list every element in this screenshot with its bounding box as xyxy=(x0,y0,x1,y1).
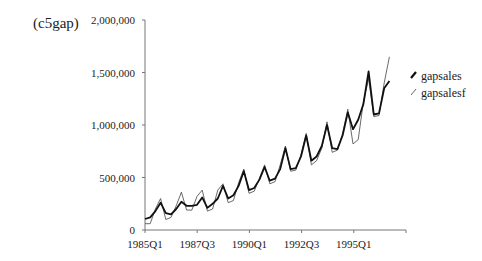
legend-item-gapsalesf: gapsalesf xyxy=(411,86,466,100)
y-tick-label: 1,500,000 xyxy=(91,67,136,79)
x-tick-label: 1987Q3 xyxy=(179,238,215,250)
legend: gapsales gapsalesf xyxy=(411,69,466,100)
series-line-gapsalesf xyxy=(145,57,389,224)
x-tick-label: 1992Q3 xyxy=(284,238,320,250)
x-tick-label: 1995Q1 xyxy=(336,238,371,250)
x-tick-label: 1990Q1 xyxy=(232,238,267,250)
series-line-gapsales xyxy=(145,71,389,219)
legend-item-gapsales: gapsales xyxy=(411,69,462,83)
line-chart: (c5gap) 0500,0001,000,0001,500,0002,000,… xyxy=(0,0,482,261)
panel-label: (c5gap) xyxy=(33,15,79,32)
y-tick-label: 1,000,000 xyxy=(91,119,136,131)
x-tick-label: 1985Q1 xyxy=(127,238,162,250)
y-tick-label: 2,000,000 xyxy=(91,14,136,26)
legend-swatch-thin-icon xyxy=(411,89,416,95)
legend-label: gapsalesf xyxy=(421,86,466,100)
plot-area xyxy=(145,57,389,224)
y-tick-label: 0 xyxy=(130,224,136,236)
y-axis: 0500,0001,000,0001,500,0002,000,000 xyxy=(91,14,145,236)
y-tick-label: 500,000 xyxy=(99,172,135,184)
legend-label: gapsales xyxy=(421,69,462,83)
legend-swatch-thick-icon xyxy=(411,72,416,78)
x-axis: 1985Q11987Q31990Q11992Q31995Q1 xyxy=(127,230,406,250)
